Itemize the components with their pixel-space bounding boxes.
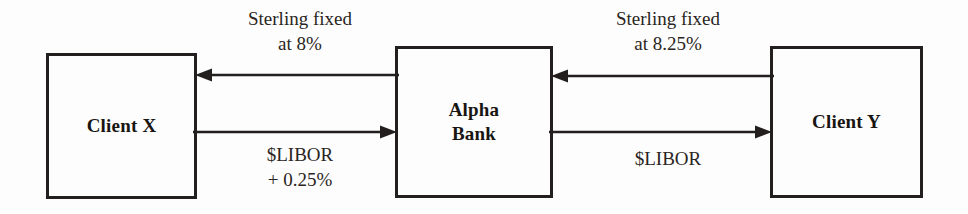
entity-label-client-y: Client Y: [812, 110, 881, 134]
entity-label-client-x: Client X: [87, 114, 157, 138]
flow-label-sterling-8: Sterling fixed at 8%: [205, 6, 395, 56]
entity-box-client-y: Client Y: [770, 46, 923, 198]
entity-box-alpha-bank: Alpha Bank: [395, 46, 553, 198]
flow-arrow-libor-y: [549, 121, 774, 143]
flow-label-libor-025: $LIBOR + 0.25%: [205, 142, 395, 192]
flow-arrow-sterling-825: [549, 65, 774, 87]
swap-flow-diagram: Client X Alpha Bank Client Y: [0, 0, 968, 214]
entity-label-alpha-bank: Alpha Bank: [449, 98, 500, 146]
flow-arrow-libor-025: [193, 121, 399, 143]
flow-label-libor-y: $LIBOR: [570, 146, 766, 171]
flow-arrow-sterling-8: [193, 64, 399, 86]
entity-box-client-x: Client X: [46, 53, 197, 199]
flow-label-sterling-825: Sterling fixed at 8.25%: [570, 6, 766, 56]
